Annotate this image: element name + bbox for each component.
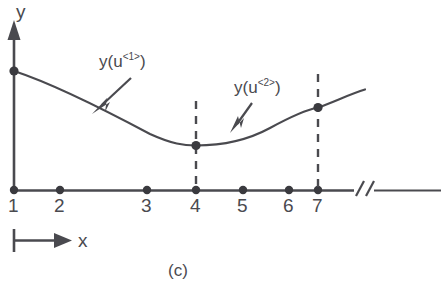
- figure-caption: (c): [168, 262, 188, 279]
- x-axis: [14, 181, 441, 196]
- curve-label-u2: y(u<2>): [234, 78, 281, 96]
- annotation-arrow-1: [92, 78, 131, 114]
- curve-label-u1-close: ): [140, 52, 146, 71]
- curve-label-u1-base: y(u: [99, 52, 123, 71]
- tick-dot-5: [239, 186, 247, 194]
- curve-point-minimum: [191, 141, 200, 150]
- curve-label-u2-superscript: <2>: [258, 77, 275, 88]
- curve-label-u1-superscript: <1>: [123, 51, 140, 62]
- x-tick-label-5: 5: [237, 196, 248, 215]
- x-tick-label-3: 3: [141, 196, 152, 215]
- x-tick-label-1: 1: [8, 196, 19, 215]
- curve-label-u1: y(u<1>): [99, 52, 146, 70]
- x-axis-label: x: [78, 231, 88, 250]
- y-axis-arrowhead: [8, 20, 21, 40]
- x-direction-arrowhead: [54, 233, 72, 248]
- tick-dot-1: [10, 186, 18, 194]
- curve-point-x7: [313, 103, 322, 112]
- x-tick-label-4: 4: [190, 196, 201, 215]
- curve-label-u2-base: y(u: [234, 78, 258, 97]
- y-axis: [8, 20, 21, 191]
- annotation-arrow-2: [230, 103, 252, 133]
- x-tick-label-6: 6: [283, 196, 294, 215]
- x-tick-label-2: 2: [54, 196, 65, 215]
- figure-canvas: [0, 0, 446, 289]
- tick-dot-2: [56, 186, 64, 194]
- y-axis-label: y: [16, 2, 26, 21]
- figure-panel-c: y x 1 2 3 4 5 6 7 y(u<1>) y(u<2>) (c): [0, 0, 446, 289]
- x-direction-indicator: [14, 229, 72, 252]
- x-tick-label-7: 7: [312, 196, 323, 215]
- curve-label-u2-close: ): [275, 78, 281, 97]
- tick-dot-6: [285, 186, 293, 194]
- tick-dot-4: [192, 186, 200, 194]
- tick-dot-3: [143, 186, 151, 194]
- x-axis-break-icon: [356, 181, 374, 196]
- tick-dot-7: [314, 186, 322, 194]
- curve-point-start: [9, 66, 18, 75]
- response-curve: [14, 71, 365, 146]
